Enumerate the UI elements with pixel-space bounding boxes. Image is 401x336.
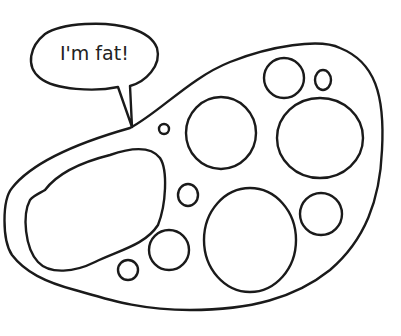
fat-droplet — [264, 58, 304, 98]
fat-droplet — [149, 230, 189, 270]
fat-droplet — [178, 184, 198, 206]
speech-bubble: I'm fat! — [31, 24, 158, 127]
fat-droplet — [118, 260, 138, 280]
fat-droplet — [300, 193, 342, 235]
cell-illustration: I'm fat! — [0, 0, 401, 336]
fat-droplet — [159, 124, 169, 134]
fat-droplet — [315, 70, 331, 90]
fat-droplet — [277, 98, 363, 178]
fat-droplet — [186, 97, 256, 169]
large-fat-droplet — [26, 149, 166, 271]
fat-droplet — [204, 188, 296, 292]
speech-text: I'm fat! — [60, 42, 129, 64]
